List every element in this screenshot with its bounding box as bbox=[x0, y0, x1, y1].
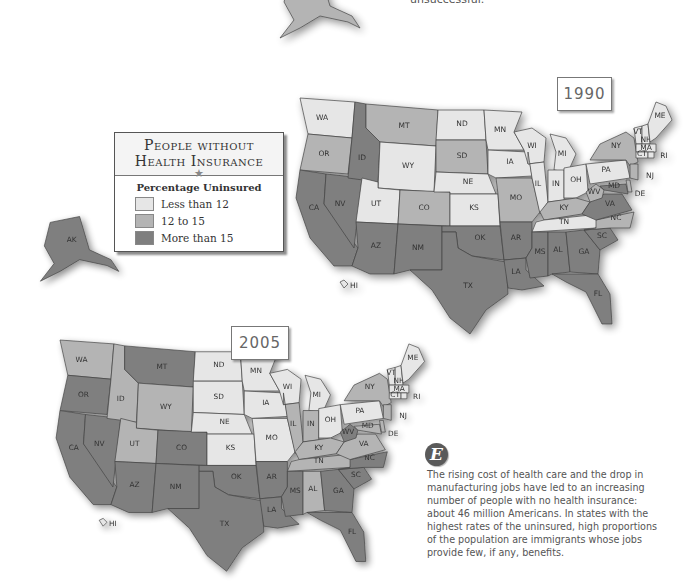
state-label-pa: PA bbox=[601, 165, 611, 174]
map-1990: WAORCANVIDMTWYUTCOAZNMNDSDNEKSOKTXMNIAMO… bbox=[280, 0, 672, 334]
state-label-az: AZ bbox=[371, 241, 381, 250]
state-label-ga: GA bbox=[579, 247, 591, 256]
state-label-tn: TN bbox=[313, 456, 324, 465]
state-label-in: IN bbox=[307, 419, 315, 428]
state-label-mn: MN bbox=[494, 125, 506, 134]
state-label-az: AZ bbox=[129, 480, 139, 489]
state-label-ca: CA bbox=[309, 203, 320, 212]
state-label-ri: RI bbox=[660, 151, 667, 160]
state-label-ms: MS bbox=[290, 486, 301, 495]
state-label-me: ME bbox=[654, 111, 665, 120]
state-label-ct: CT bbox=[390, 390, 400, 399]
state-label-mi: MI bbox=[313, 390, 322, 399]
state-me-1990 bbox=[648, 102, 672, 142]
state-label-nv: NV bbox=[335, 199, 347, 208]
state-label-ca: CA bbox=[69, 443, 79, 452]
state-label-wa: WA bbox=[316, 113, 329, 122]
legend-item-mid: 12 to 15 bbox=[135, 214, 283, 228]
state-label-md: MD bbox=[608, 181, 620, 190]
state-label-ut: UT bbox=[130, 439, 140, 448]
state-label-mo: MO bbox=[266, 433, 278, 442]
state-label-in: IN bbox=[552, 179, 560, 188]
state-fl-2005 bbox=[307, 512, 366, 561]
state-label-nj: NJ bbox=[646, 171, 654, 180]
state-label-ks: KS bbox=[469, 203, 479, 212]
state-label-la: LA bbox=[511, 267, 521, 276]
state-label-ri: RI bbox=[413, 392, 420, 401]
legend-title-line1: People without bbox=[119, 137, 279, 153]
state-label-nm: NM bbox=[412, 243, 424, 252]
state-label-mo: MO bbox=[510, 193, 522, 202]
state-label-ar: AR bbox=[511, 233, 521, 242]
state-label-me: ME bbox=[407, 353, 418, 362]
state-label-co: CO bbox=[176, 443, 187, 452]
state-label-tx: TX bbox=[219, 519, 230, 528]
state-label-sd: SD bbox=[214, 392, 225, 401]
state-label-ia: IA bbox=[506, 157, 514, 166]
state-label-sc: SC bbox=[597, 231, 607, 240]
state-label-wy: WY bbox=[402, 161, 414, 170]
state-label-wi: WI bbox=[527, 141, 537, 150]
state-label-nv: NV bbox=[94, 439, 105, 448]
state-label-ne: NE bbox=[463, 177, 474, 186]
state-label-mt: MT bbox=[157, 362, 168, 371]
state-label-fl: FL bbox=[348, 527, 357, 536]
state-hi-1990 bbox=[340, 280, 348, 288]
state-me-2005 bbox=[401, 344, 425, 383]
state-label-al: AL bbox=[308, 484, 318, 493]
state-nj-1990 bbox=[630, 164, 638, 180]
state-label-pa: PA bbox=[355, 406, 364, 415]
state-label-mn: MN bbox=[250, 366, 262, 375]
state-label-md: MD bbox=[362, 421, 374, 430]
legend-label-low: Less than 12 bbox=[161, 198, 229, 210]
state-label-hi: HI bbox=[109, 519, 117, 528]
state-label-la: LA bbox=[267, 505, 276, 514]
state-label-va: VA bbox=[605, 199, 616, 208]
state-label-de: DE bbox=[388, 429, 399, 438]
state-hi-2005 bbox=[99, 518, 107, 526]
legend-label-mid: 12 to 15 bbox=[161, 215, 205, 227]
state-label-oh: OH bbox=[570, 175, 582, 184]
state-label-mi: MI bbox=[558, 149, 567, 158]
state-label-ut: UT bbox=[371, 199, 381, 208]
state-label-wa: WA bbox=[76, 355, 88, 364]
state-ri-1990 bbox=[648, 152, 654, 158]
state-label-id: ID bbox=[117, 394, 125, 403]
state-label-ky: KY bbox=[314, 443, 324, 452]
state-label-ar: AR bbox=[267, 472, 277, 481]
state-label-wi: WI bbox=[283, 382, 292, 391]
state-label-sc: SC bbox=[351, 470, 361, 479]
state-label-nd: ND bbox=[213, 360, 224, 369]
state-label-id: ID bbox=[358, 153, 366, 162]
state-label-fl: FL bbox=[594, 289, 603, 298]
state-label-ny: NY bbox=[611, 141, 622, 150]
state-label-al: AL bbox=[553, 245, 563, 254]
caption-text: The rising cost of health care and the d… bbox=[427, 468, 667, 559]
legend-label-high: More than 15 bbox=[161, 232, 233, 244]
state-label-or: OR bbox=[318, 149, 329, 158]
state-label-tx: TX bbox=[462, 281, 473, 290]
state-label-or: OR bbox=[78, 390, 89, 399]
state-label-ky: KY bbox=[559, 203, 569, 212]
state-label-nj: NJ bbox=[399, 411, 407, 420]
state-label-ny: NY bbox=[365, 382, 375, 391]
state-label-il: IL bbox=[535, 179, 542, 188]
swatch-low bbox=[135, 197, 154, 211]
state-label-ak: AK bbox=[67, 235, 77, 244]
state-nj-2005 bbox=[383, 405, 391, 421]
year-label-2005: 2005 bbox=[231, 326, 289, 360]
state-label-hi: HI bbox=[350, 281, 358, 290]
state-label-wv: WV bbox=[588, 187, 601, 196]
legend: People without Health Insurance ★ Percen… bbox=[114, 132, 284, 252]
state-label-ct: CT bbox=[637, 149, 647, 158]
state-label-ia: IA bbox=[262, 398, 269, 407]
state-ak-2005 bbox=[40, 217, 118, 282]
state-label-mt: MT bbox=[398, 121, 409, 130]
legend-subtitle: Percentage Uninsured bbox=[115, 182, 283, 193]
state-fl-1990 bbox=[552, 274, 612, 324]
swatch-mid bbox=[135, 214, 154, 228]
state-ak-1990 bbox=[280, 0, 360, 38]
state-label-tn: TN bbox=[558, 217, 569, 226]
state-label-co: CO bbox=[418, 203, 429, 212]
state-ri-2005 bbox=[401, 393, 407, 399]
